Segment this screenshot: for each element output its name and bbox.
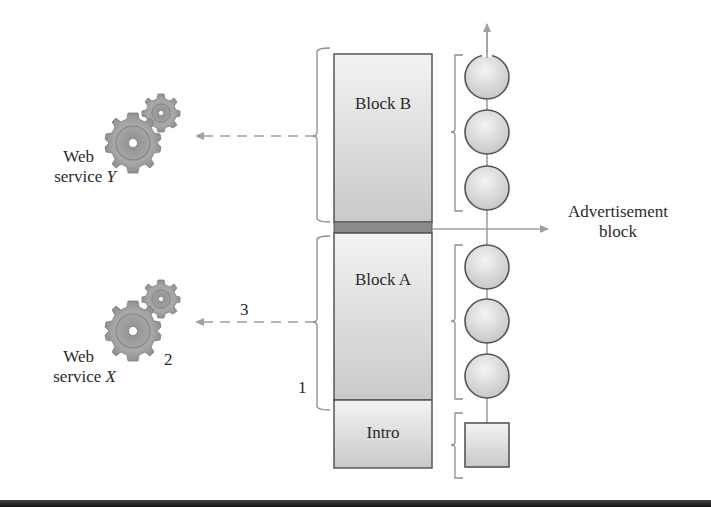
circle-node [465,245,509,289]
service-y-line2: service Y [20,167,116,187]
bracket-block-b [313,48,330,222]
bracket-lower-circles [451,245,463,399]
step-label-3: 3 [240,300,249,320]
circle-node [465,110,509,154]
square-node [465,423,509,467]
advertisement-label-line2: block [548,222,688,242]
bracket-block-a-intro [313,236,330,410]
intro-label: Intro [334,423,432,443]
bracket-upper-circles [451,55,463,211]
block-b-label: Block B [334,94,432,114]
step-label-1: 1 [298,378,307,398]
circle-node [465,55,509,99]
service-y-line1: Web [40,147,94,167]
separator-band [334,222,432,233]
service-x-line1: Web [40,347,94,367]
block-a [334,233,432,400]
circle-node [465,299,509,343]
circle-node [465,354,509,398]
gear-icon-service-y [105,94,180,173]
advertisement-label-line1: Advertisement [548,202,688,222]
step-label-2: 2 [164,350,173,370]
service-x-line2: service X [20,367,116,387]
bracket-square [451,413,463,478]
bottom-border-bar [0,500,711,507]
block-a-label: Block A [334,270,432,290]
gear-icon-service-x [105,280,180,361]
block-b [334,54,432,222]
circle-node [465,166,509,210]
